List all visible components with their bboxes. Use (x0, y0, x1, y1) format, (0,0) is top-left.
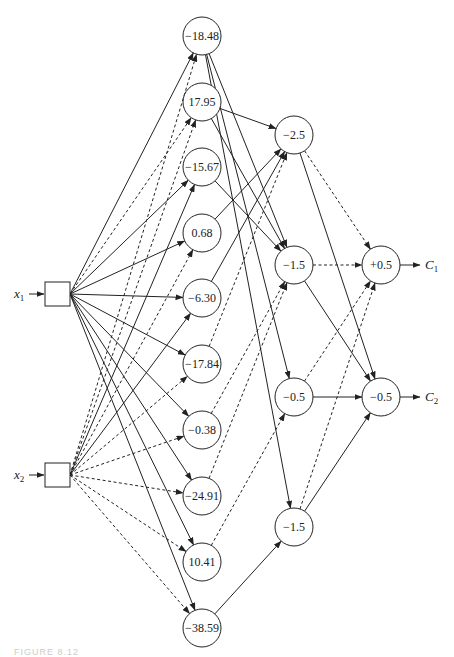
hidden2-neuron-0: −2.5 (275, 116, 313, 154)
negative-weight-edge (70, 475, 186, 552)
input-box-x2 (45, 463, 70, 487)
neuron-threshold-label: −38.59 (185, 621, 219, 635)
hidden2-neuron-2: −0.5 (275, 378, 313, 416)
input-label-x1: x1 (13, 286, 24, 303)
hidden2-neuron-3: −1.5 (275, 508, 313, 546)
hidden1-neuron-4: −6.30 (183, 279, 221, 317)
positive-weight-edge (70, 294, 192, 480)
negative-weight-edge (211, 414, 284, 546)
positive-weight-edge (70, 294, 183, 297)
output-neuron-1: −0.5 (362, 378, 400, 416)
figure-caption: FIGURE 8.12 (14, 647, 79, 657)
output-label-c1: C1 (425, 257, 438, 274)
hidden1-neuron-7: −24.91 (183, 477, 221, 515)
negative-weight-edge (211, 282, 284, 414)
hidden2-neuron-1: −1.5 (275, 246, 313, 284)
hidden1-neuron-2: −15.67 (183, 148, 221, 186)
positive-weight-edge (215, 541, 281, 614)
negative-weight-edge (209, 283, 287, 479)
neuron-threshold-label: −15.67 (185, 160, 219, 174)
positive-weight-edge (70, 241, 185, 294)
neuron-threshold-label: −0.5 (370, 390, 392, 404)
positive-weight-edge (211, 119, 284, 249)
neuron-threshold-label: −6.30 (188, 291, 216, 305)
positive-weight-edge (220, 108, 276, 128)
negative-weight-edge (70, 118, 191, 294)
positive-weight-edge (70, 294, 195, 610)
neuron-threshold-label: −1.5 (283, 520, 305, 534)
edges (70, 53, 375, 614)
neuron-threshold-label: 17.95 (189, 95, 216, 109)
positive-weight-edge (70, 180, 188, 294)
hidden1-neuron-9: −38.59 (183, 609, 221, 647)
neuron-threshold-label: −1.5 (283, 258, 305, 272)
output-c2: C2 (400, 389, 438, 406)
output-neuron-0: +0.5 (362, 246, 400, 284)
positive-weight-edge (70, 294, 185, 355)
input-x1: x1 (13, 282, 70, 306)
positive-weight-edge (70, 184, 195, 475)
neuron-threshold-label: 0.68 (192, 226, 213, 240)
input-label-x2: x2 (13, 467, 24, 484)
neuron-threshold-label: +0.5 (370, 258, 392, 272)
positive-weight-edge (305, 413, 371, 511)
output-label-c2: C2 (425, 389, 438, 406)
hidden1-neuron-3: 0.68 (183, 214, 221, 252)
neuron-threshold-label: −2.5 (283, 128, 305, 142)
hidden1-neuron-6: −0.38 (183, 411, 221, 449)
negative-weight-edge (209, 153, 287, 347)
hidden1-neuron-0: −18.48 (183, 17, 221, 55)
neuron-threshold-label: −24.91 (185, 489, 219, 503)
negative-weight-edge (70, 475, 190, 614)
positive-weight-edge (70, 53, 193, 294)
input-box-x1 (45, 282, 70, 306)
input-x2: x2 (13, 463, 70, 487)
hidden1-neuron-1: 17.95 (183, 83, 221, 121)
negative-weight-edge (305, 151, 371, 249)
neuron-threshold-label: −18.48 (185, 29, 219, 43)
neuron-threshold-label: −17.84 (185, 357, 219, 371)
neural-network-diagram: x1 x2 −18.4817.95−15.670.68−6.30−17.84−0… (0, 0, 454, 657)
hidden1-neuron-5: −17.84 (183, 345, 221, 383)
output-c1: C1 (400, 257, 438, 274)
neuron-threshold-label: −0.5 (283, 390, 305, 404)
positive-weight-edge (70, 294, 189, 416)
negative-weight-edge (70, 250, 193, 475)
neuron-threshold-label: −0.38 (188, 423, 216, 437)
neuron-threshold-label: 10.41 (189, 555, 216, 569)
hidden1-neuron-8: 10.41 (183, 543, 221, 581)
